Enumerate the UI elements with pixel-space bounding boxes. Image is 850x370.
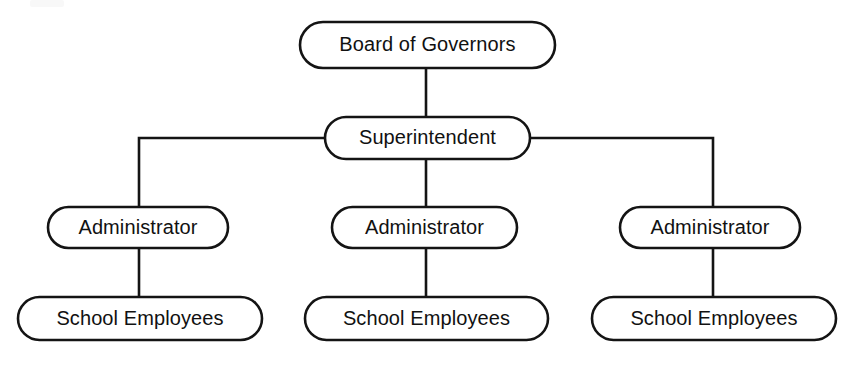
org-chart-svg: Board of Governors Superintendent Admini…	[0, 0, 850, 370]
node-label-administrator-2: Administrator	[365, 216, 484, 238]
node-administrator-2[interactable]: Administrator	[332, 207, 517, 248]
node-label-superintendent: Superintendent	[359, 126, 496, 148]
node-superintendent[interactable]: Superintendent	[325, 117, 530, 159]
node-label-administrator-3: Administrator	[650, 216, 769, 238]
connector-superintendent-right-bus	[530, 138, 713, 207]
node-label-school-employees-1: School Employees	[56, 307, 223, 329]
node-school-employees-2[interactable]: School Employees	[305, 297, 548, 340]
connector-superintendent-left-bus	[139, 138, 325, 207]
node-board-of-governors[interactable]: Board of Governors	[300, 22, 555, 68]
node-label-board-of-governors: Board of Governors	[339, 33, 515, 55]
org-chart-canvas: Board of Governors Superintendent Admini…	[0, 0, 850, 370]
node-label-administrator-1: Administrator	[78, 216, 197, 238]
node-label-school-employees-3: School Employees	[630, 307, 797, 329]
node-school-employees-1[interactable]: School Employees	[18, 297, 262, 340]
node-label-school-employees-2: School Employees	[343, 307, 510, 329]
node-administrator-1[interactable]: Administrator	[48, 207, 228, 248]
connector-layer	[139, 68, 713, 297]
node-administrator-3[interactable]: Administrator	[620, 207, 800, 248]
node-school-employees-3[interactable]: School Employees	[592, 297, 836, 340]
